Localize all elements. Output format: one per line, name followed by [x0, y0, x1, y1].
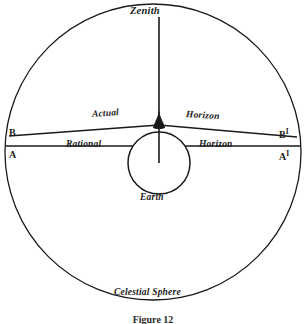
label-actual-horizon-right: Horizon: [186, 110, 220, 122]
label-rational-horizon-left: Rational: [66, 140, 101, 150]
figure-caption: Figure 12: [0, 314, 306, 324]
label-earth: Earth: [140, 193, 164, 203]
diagram-canvas: [0, 0, 306, 324]
label-zenith: Zenith: [130, 6, 160, 17]
label-rational-horizon-right: Horizon: [199, 140, 233, 150]
label-point-a: A: [9, 150, 16, 160]
observer-icon: [153, 112, 165, 129]
celestial-sphere-figure: Zenith Actual Horizon Rational Horizon E…: [0, 0, 306, 324]
label-point-a-prime: AI: [279, 150, 289, 162]
actual-horizon-line-right: [159, 125, 297, 137]
label-point-b: B: [9, 128, 16, 138]
label-point-b-prime: BI: [279, 128, 289, 140]
label-actual-horizon-left: Actual: [92, 108, 120, 119]
label-point-b-prime-letter: B: [279, 129, 286, 140]
label-celestial-sphere: Celestial Sphere: [114, 288, 181, 298]
prime-symbol-a: I: [286, 149, 289, 158]
prime-symbol-b: I: [286, 127, 289, 136]
actual-horizon-line-left: [9, 125, 159, 136]
